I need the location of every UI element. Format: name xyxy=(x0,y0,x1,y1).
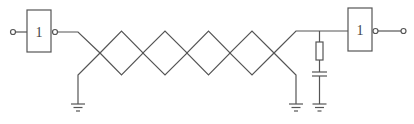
inverter-bubble-icon xyxy=(373,29,378,34)
rc-termination xyxy=(312,31,327,111)
circuit-diagram: 1 1 xyxy=(0,0,414,124)
left-inverter-gate: 1 xyxy=(11,10,58,52)
input-terminal-icon xyxy=(11,30,16,35)
output-terminal-icon xyxy=(401,29,406,34)
resistor-icon xyxy=(316,42,323,60)
inverter-bubble-icon xyxy=(53,30,58,35)
right-inverter-gate: 1 xyxy=(348,8,406,51)
left-gate-label: 1 xyxy=(36,25,43,40)
twisted-pair-line xyxy=(100,31,274,75)
ground-icon-middle xyxy=(289,104,303,111)
ground-icon-right xyxy=(313,104,327,111)
ground-icon-left xyxy=(71,104,85,111)
right-gate-label: 1 xyxy=(357,23,364,38)
